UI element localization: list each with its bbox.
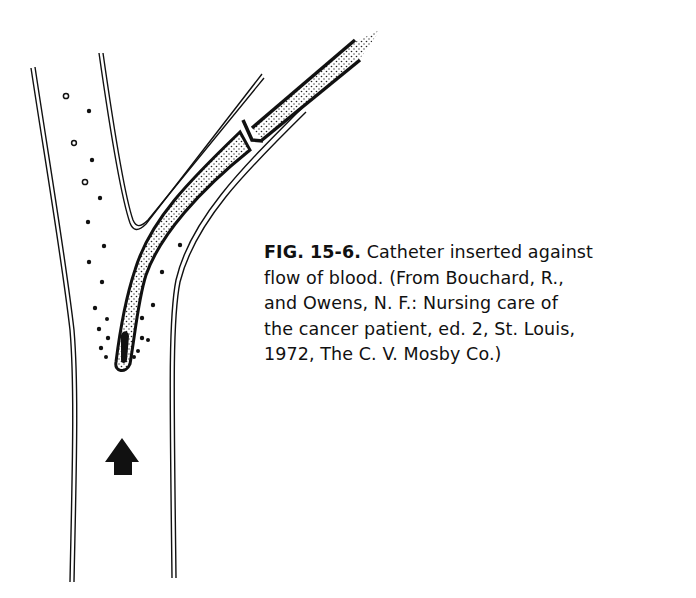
caption-line: the cancer patient, ed. 2, St. Louis, [264, 317, 694, 343]
figure-label: FIG. 15-6. [264, 242, 361, 262]
caption-line: 1972, The C. V. Mosby Co.) [264, 342, 694, 368]
insertion-arrow [243, 30, 380, 141]
caption-line: Catheter inserted against [361, 242, 593, 262]
caption-line: and Owens, N. F.: Nursing care of [264, 291, 694, 317]
catheter [116, 132, 250, 371]
figure-caption: FIG. 15-6. Catheter inserted against flo… [264, 240, 694, 368]
caption-line: flow of blood. (From Bouchard, R., [264, 266, 694, 292]
blood-flow-arrow [105, 438, 139, 475]
vessel-wall-left [31, 67, 77, 582]
